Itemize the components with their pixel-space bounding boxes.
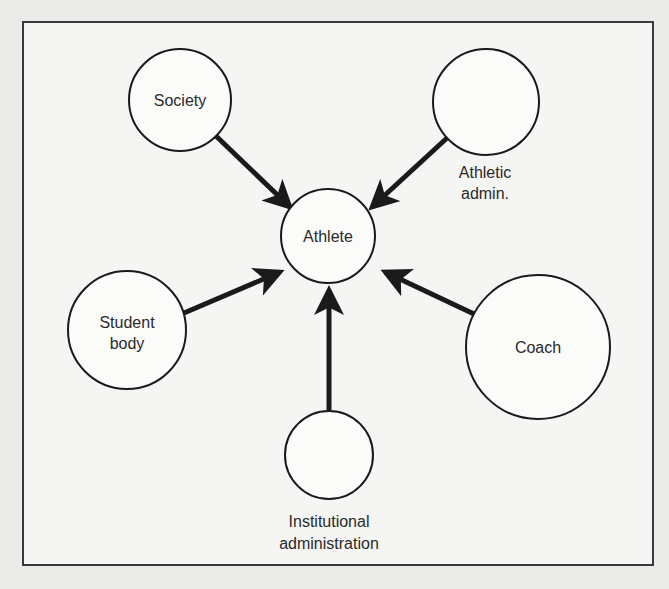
node-society-label: Society (154, 92, 206, 109)
edge-athletic-admin-to-athlete (372, 138, 447, 207)
node-athlete: Athlete (281, 189, 375, 283)
node-student-body-label-line1: Student (99, 314, 155, 331)
node-athlete-label: Athlete (303, 228, 353, 245)
node-institutional-administration: Institutional administration (279, 411, 379, 552)
node-athletic-admin-label-line1: Athletic (459, 164, 511, 181)
node-student-body-label-line2: body (110, 335, 145, 352)
node-institutional-label-line1: Institutional (289, 513, 370, 530)
edge-coach-to-athlete (385, 272, 474, 314)
node-student-body: Student body (68, 271, 186, 389)
node-institutional-label-line2: administration (279, 535, 379, 552)
edge-student-body-to-athlete (184, 272, 280, 313)
node-coach: Coach (466, 275, 610, 419)
influence-diagram: Society Athletic admin. Athlete Student … (0, 0, 669, 589)
node-athletic-admin: Athletic admin. (433, 49, 539, 202)
node-athletic-admin-label-line2: admin. (461, 185, 509, 202)
node-society: Society (129, 49, 231, 151)
node-coach-label: Coach (515, 339, 561, 356)
edge-society-to-athlete (216, 136, 290, 207)
